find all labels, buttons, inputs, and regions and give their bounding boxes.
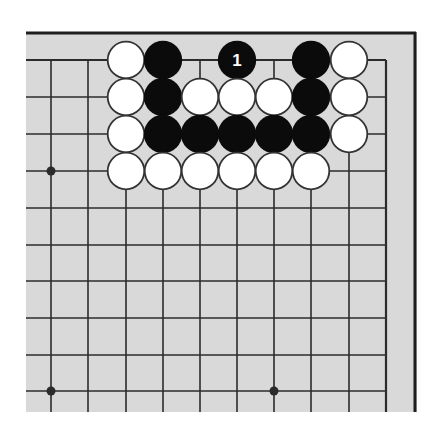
- black-stone-disc: [292, 41, 330, 79]
- white-stone-disc: [108, 153, 145, 190]
- white-stone: [108, 42, 145, 79]
- white-stone-disc: [108, 116, 145, 153]
- black-stone: [292, 41, 330, 79]
- white-stone: [256, 79, 293, 116]
- white-stone: [108, 116, 145, 153]
- black-stone: [255, 115, 293, 153]
- white-stone-disc: [108, 79, 145, 116]
- white-stone-disc: [182, 79, 219, 116]
- white-stone: [256, 153, 293, 190]
- black-stone: [144, 41, 182, 79]
- white-stone-disc: [331, 79, 368, 116]
- black-stone: [292, 78, 330, 116]
- white-stone: [182, 153, 219, 190]
- black-stone: [144, 115, 182, 153]
- black-stone-disc: [255, 115, 293, 153]
- white-stone: [331, 79, 368, 116]
- star-point: [47, 387, 56, 396]
- white-stone: [219, 79, 256, 116]
- white-stone: [331, 42, 368, 79]
- white-stone: [182, 79, 219, 116]
- black-stone: [218, 115, 256, 153]
- white-stone-disc: [182, 153, 219, 190]
- star-point: [47, 167, 56, 176]
- white-stone-disc: [108, 42, 145, 79]
- black-stone-disc: [292, 115, 330, 153]
- black-stone-move-1: 1: [218, 41, 256, 79]
- black-stone-disc: [144, 78, 182, 116]
- go-board-diagram: 1: [0, 0, 432, 433]
- white-stone: [293, 153, 330, 190]
- black-stone: [292, 115, 330, 153]
- black-stone: [144, 78, 182, 116]
- black-stone-disc: [218, 115, 256, 153]
- white-stone-disc: [331, 116, 368, 153]
- black-stone-disc: [144, 115, 182, 153]
- white-stone: [145, 153, 182, 190]
- white-stone: [108, 79, 145, 116]
- white-stone-disc: [219, 79, 256, 116]
- move-number-label: 1: [232, 51, 241, 70]
- star-point: [270, 387, 279, 396]
- white-stone-disc: [256, 153, 293, 190]
- white-stone: [108, 153, 145, 190]
- black-stone-disc: [181, 115, 219, 153]
- black-stone-disc: [292, 78, 330, 116]
- white-stone-disc: [293, 153, 330, 190]
- black-stone: [181, 115, 219, 153]
- white-stone: [331, 116, 368, 153]
- white-stone-disc: [331, 42, 368, 79]
- white-stone-disc: [219, 153, 256, 190]
- white-stone-disc: [145, 153, 182, 190]
- black-stone-disc: [144, 41, 182, 79]
- white-stone: [219, 153, 256, 190]
- white-stone-disc: [256, 79, 293, 116]
